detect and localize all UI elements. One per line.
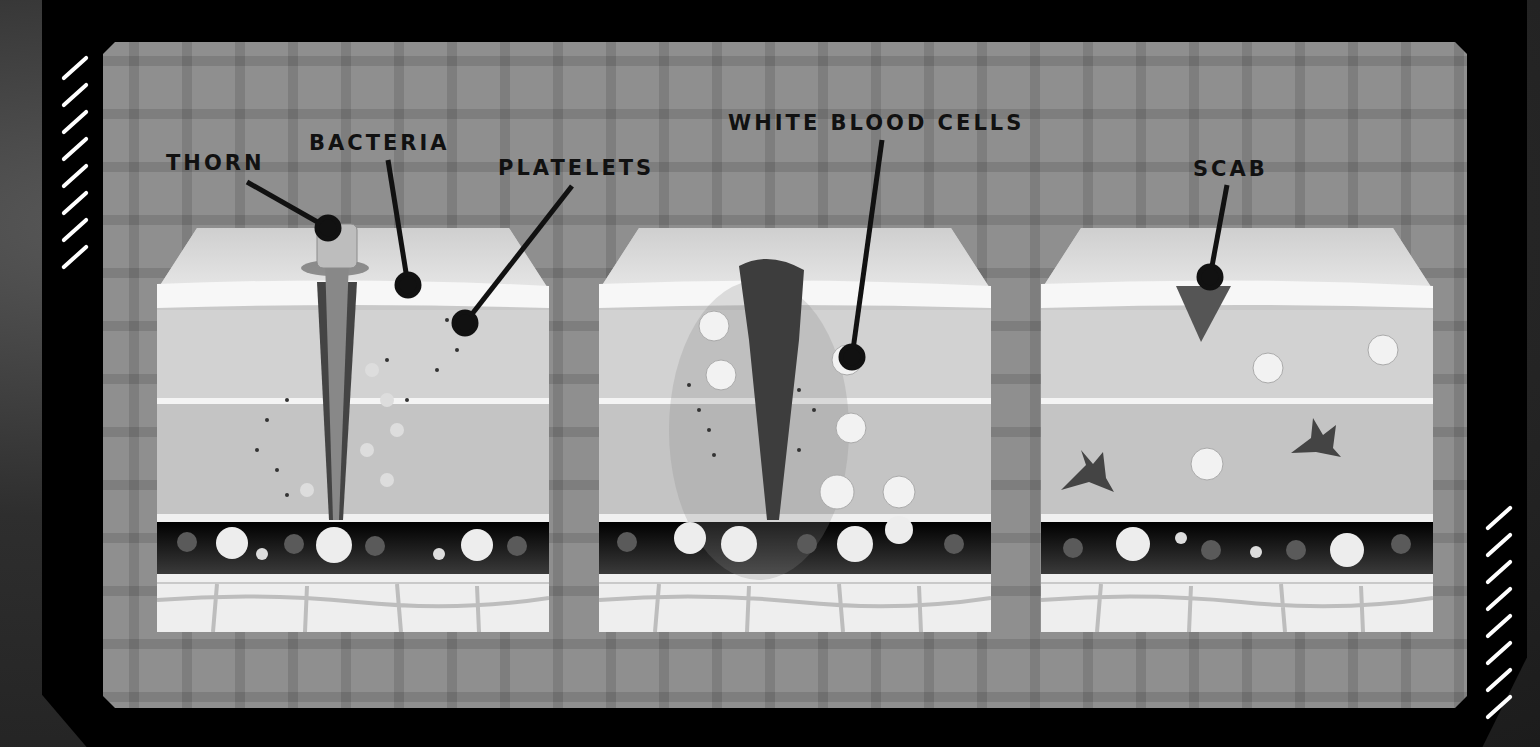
label-platelets: PLATELETS — [498, 156, 654, 180]
label-white-blood-cells: WHITE BLOOD CELLS — [728, 111, 1024, 135]
hatch-decoration-top-left — [58, 58, 92, 267]
label-bacteria: BACTERIA — [309, 131, 450, 155]
label-scab: SCAB — [1193, 157, 1268, 181]
hatch-decoration-bottom-right — [1482, 508, 1516, 717]
label-thorn: THORN — [166, 151, 265, 175]
stage-1-block — [157, 220, 549, 632]
stage-2-block — [599, 220, 991, 632]
stage-3-block — [1041, 220, 1433, 632]
